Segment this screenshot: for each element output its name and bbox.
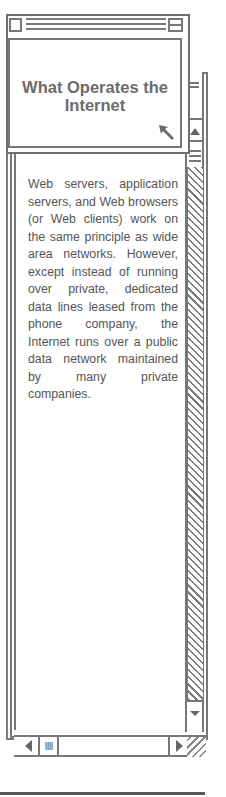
arrow-right-icon xyxy=(176,740,183,752)
mouse-pointer-icon xyxy=(157,123,177,143)
scroll-down-button[interactable] xyxy=(187,700,203,726)
close-button[interactable] xyxy=(9,18,22,32)
scroll-thumb[interactable] xyxy=(188,147,202,165)
arrow-left-icon xyxy=(25,740,32,752)
arrow-down-icon xyxy=(190,711,200,716)
title-bar-stripes[interactable] xyxy=(26,18,166,32)
body-text: Web servers, application servers, and We… xyxy=(28,176,178,404)
horizontal-scroll-thumb[interactable]: IIII xyxy=(40,737,59,755)
resize-handle[interactable] xyxy=(187,735,206,757)
scroll-left-button[interactable] xyxy=(20,737,40,755)
page-title: What Operates the Internet xyxy=(14,78,176,114)
divider xyxy=(0,792,205,795)
zoom-button[interactable] xyxy=(168,18,183,32)
scroll-right-button[interactable] xyxy=(168,737,187,755)
vertical-scroll-track[interactable] xyxy=(187,167,203,702)
arrow-up-icon xyxy=(190,128,200,135)
